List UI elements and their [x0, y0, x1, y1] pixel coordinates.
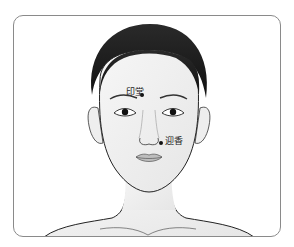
yingxiang-label: 迎香 — [165, 137, 183, 146]
face-illustration — [0, 0, 294, 247]
yingxiang-point-dot — [159, 141, 163, 145]
yintang-label: 印堂 — [126, 88, 144, 97]
